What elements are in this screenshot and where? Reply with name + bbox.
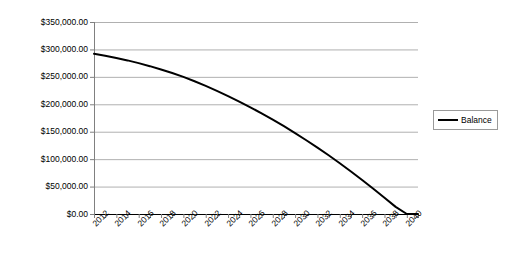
x-axis-tick-label: 2024	[225, 209, 245, 229]
x-axis-tick-label: 2036	[359, 209, 379, 229]
x-axis-tick-label: 2022	[203, 209, 223, 229]
chart-legend: Balance	[433, 110, 498, 130]
x-axis: 2012201420162018202020222024202620282030…	[0, 0, 525, 266]
x-axis-tick-label: 2038	[381, 209, 401, 229]
x-axis-tick-label: 2028	[270, 209, 290, 229]
x-axis-tick-label: 2016	[136, 209, 156, 229]
x-axis-tick-label: 2026	[247, 209, 267, 229]
x-axis-tick-label: 2012	[91, 209, 111, 229]
x-axis-tick-label: 2020	[180, 209, 200, 229]
x-axis-tick-label: 2034	[337, 209, 357, 229]
balance-line-chart: $0.00$50,000.00$100,000.00$150,000.00$20…	[0, 0, 525, 266]
legend-item-label: Balance	[461, 115, 492, 125]
legend-line-swatch	[438, 119, 458, 121]
x-axis-tick-label: 2018	[158, 209, 178, 229]
x-axis-tick-label: 2014	[113, 209, 133, 229]
x-axis-tick-label: 2030	[292, 209, 312, 229]
x-axis-tick-label: 2040	[404, 209, 424, 229]
x-axis-tick-label: 2032	[314, 209, 334, 229]
